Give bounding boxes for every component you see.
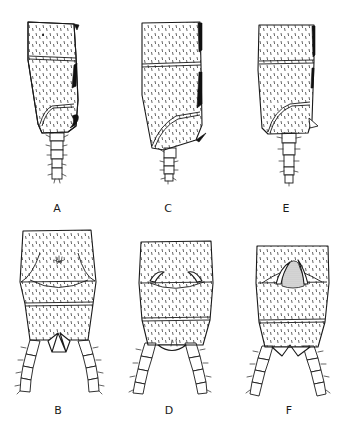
figure-e-cercus <box>277 133 301 186</box>
figure-c-cercus <box>159 148 178 184</box>
figure-label-d: D <box>165 405 173 416</box>
figure-c <box>142 22 206 184</box>
figure-d <box>129 241 213 394</box>
figure-label-b: B <box>54 405 62 416</box>
figure-label-f: F <box>286 405 292 416</box>
figure-a-cercus <box>46 133 68 183</box>
figure-label-c: C <box>164 203 172 214</box>
figure-f <box>246 246 330 396</box>
figure-b <box>15 230 104 394</box>
plate-drawing <box>0 0 344 434</box>
illustration-plate: A C E B D F <box>0 0 344 434</box>
figure-f-cerci <box>246 346 330 396</box>
figure-label-e: E <box>283 203 290 214</box>
figure-e <box>258 25 318 186</box>
figure-label-a: A <box>53 203 61 214</box>
figure-a <box>28 22 79 183</box>
